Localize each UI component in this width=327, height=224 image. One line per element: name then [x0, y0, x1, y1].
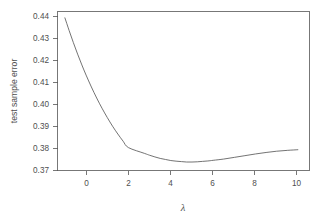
- y-tick-label: 0.44: [33, 12, 49, 21]
- x-tick-label: 10: [292, 179, 302, 188]
- y-axis-title: test sample error: [9, 59, 19, 124]
- chart-background: [0, 0, 327, 224]
- chart-figure: 0.44 0.43 0.42 0.41 0.40 0.39 0.38 0.37 …: [0, 0, 327, 224]
- y-tick-label: 0.37: [33, 166, 49, 175]
- x-tick-label: 4: [168, 179, 173, 188]
- y-tick-label: 0.41: [33, 78, 49, 87]
- x-tick-label: 2: [126, 179, 131, 188]
- y-tick-label: 0.42: [33, 56, 49, 65]
- x-tick-label: 8: [252, 179, 257, 188]
- y-tick-label: 0.38: [33, 144, 49, 153]
- y-tick-label: 0.39: [33, 122, 49, 131]
- x-axis-title: λ: [180, 202, 186, 213]
- test-sample-error-line-chart: 0.44 0.43 0.42 0.41 0.40 0.39 0.38 0.37 …: [0, 0, 327, 224]
- y-tick-label: 0.43: [33, 34, 49, 43]
- x-tick-label: 0: [84, 179, 89, 188]
- y-tick-label: 0.40: [33, 100, 49, 109]
- x-tick-label: 6: [210, 179, 215, 188]
